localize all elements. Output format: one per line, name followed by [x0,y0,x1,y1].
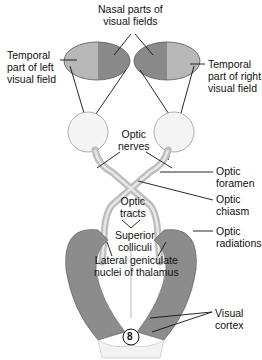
left-visual-field [60,40,138,85]
label-superior-colliculi: Superior colliculi [115,229,155,253]
figure-number: 8 [127,331,133,343]
label-optic-nerves: Optic nerves [118,128,150,152]
label-nasal-parts: Nasal parts of visual fields [98,3,163,27]
label-visual-cortex: Visual cortex [215,307,244,331]
label-optic-chiasm: Optic chiasm [216,193,249,217]
label-optic-radiations: Optic radiations [216,225,262,249]
right-visual-field [130,40,207,85]
label-lateral-geniculate: Lateral geniculate nuclei of thalamus [94,254,179,278]
visual-pathway-diagram: Nasal parts of visual fields Temporal pa… [0,0,262,360]
label-optic-foramen: Optic foramen [216,165,255,189]
label-temporal-left: Temporal part of left visual field [7,49,56,85]
label-optic-tracts: Optic tracts [120,195,146,219]
label-temporal-right: Temporal part of right visual field [208,58,261,94]
